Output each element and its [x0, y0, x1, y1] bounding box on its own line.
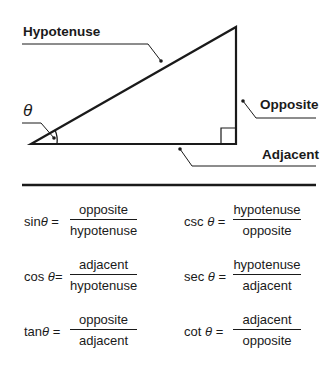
- numerator: adjacent: [70, 257, 137, 274]
- hypotenuse-label: Hypotenuse: [23, 24, 100, 39]
- right-angle-marker: [221, 128, 236, 144]
- function-name: sec θ =: [184, 269, 226, 284]
- theta-label: θ: [23, 102, 32, 119]
- theta-leader-line: [22, 123, 54, 138]
- right-triangle: [31, 27, 236, 144]
- function-name: cot θ =: [184, 324, 223, 339]
- denominator: hypotenuse: [70, 275, 137, 293]
- denominator: hypotenuse: [70, 220, 137, 238]
- numerator: hypotenuse: [233, 202, 301, 219]
- numerator: hypotenuse: [233, 257, 301, 274]
- numerator: opposite: [70, 202, 137, 219]
- denominator: opposite: [233, 220, 301, 238]
- hypotenuse-leader-line: [22, 44, 161, 61]
- opposite-label: Opposite: [260, 97, 319, 112]
- denominator: adjacent: [233, 275, 301, 293]
- numerator: adjacent: [233, 312, 301, 329]
- adjacent-label: Adjacent: [262, 147, 319, 162]
- function-name: cos θ=: [24, 269, 63, 284]
- numerator: opposite: [70, 312, 137, 329]
- denominator: adjacent: [70, 330, 137, 348]
- function-name: csc θ =: [184, 214, 225, 229]
- function-name: sinθ =: [24, 214, 59, 229]
- function-name: tanθ =: [24, 324, 60, 339]
- denominator: opposite: [233, 330, 301, 348]
